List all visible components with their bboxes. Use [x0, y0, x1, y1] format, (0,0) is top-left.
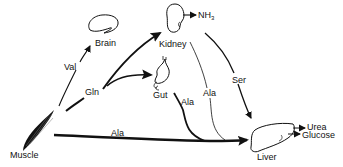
brain-label: Brain — [95, 39, 116, 48]
muscle-icon — [23, 110, 54, 151]
ala-arrow-muscle-to-liver — [54, 135, 247, 141]
nh3-subscript: 3 — [211, 15, 214, 21]
ala-gut-flow-label: Ala — [181, 98, 194, 107]
ala-muscle-flow-label: Ala — [111, 129, 124, 138]
diagram-graphics — [0, 0, 343, 167]
kidney-icon — [167, 4, 184, 32]
muscle-label: Muscle — [10, 151, 39, 160]
liver-icon — [251, 123, 295, 151]
val-flow-label: Val — [64, 63, 76, 72]
liver-label: Liver — [257, 153, 277, 162]
nh3-text: NH — [198, 10, 211, 20]
gut-label: Gut — [153, 91, 168, 100]
brain-icon — [89, 15, 118, 33]
ala-kidney-flow-label: Ala — [203, 89, 216, 98]
gut-icon — [154, 56, 169, 90]
interorgan-amino-acid-flow-diagram: Muscle Brain Kidney Gut Liver NH3 Urea G… — [0, 0, 343, 167]
val-arrow-muscle-to-brain — [59, 46, 90, 106]
gln-flow-label: Gln — [85, 88, 99, 97]
kidney-label: Kidney — [159, 40, 187, 49]
nh3-label: NH3 — [198, 11, 214, 21]
ser-flow-label: Ser — [232, 76, 246, 85]
glucose-label: Glucose — [302, 131, 335, 140]
